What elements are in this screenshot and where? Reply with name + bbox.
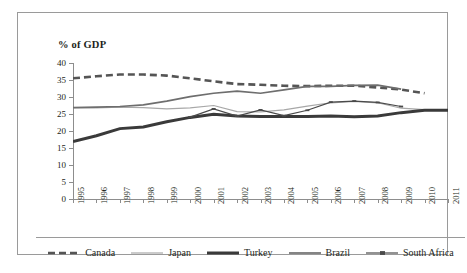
series-marker-south-africa xyxy=(376,102,380,104)
x-tick xyxy=(120,199,121,203)
series-line-brazil xyxy=(73,85,401,107)
x-tick xyxy=(73,199,74,203)
legend-swatch-japan xyxy=(130,248,164,258)
series-marker-south-africa xyxy=(329,101,333,103)
legend-swatch-canada xyxy=(47,248,81,258)
series-marker-south-africa xyxy=(352,100,356,102)
x-tick xyxy=(96,199,97,203)
series-marker-south-africa xyxy=(399,106,403,108)
series-marker-south-africa xyxy=(212,108,216,110)
y-tick-label: 30 xyxy=(26,93,66,102)
series-marker-south-africa xyxy=(188,116,192,118)
legend-label-japan: Japan xyxy=(168,247,191,258)
legend-swatch-brazil xyxy=(288,248,322,258)
series-marker-south-africa xyxy=(259,109,263,111)
legend-item-japan[interactable]: Japan xyxy=(130,247,191,258)
legend-label-brazil: Brazil xyxy=(326,247,350,258)
series-line-turkey xyxy=(73,110,448,141)
x-tick xyxy=(378,199,379,203)
series-marker-south-africa xyxy=(305,109,309,111)
x-tick xyxy=(237,199,238,203)
x-tick xyxy=(448,199,449,203)
chart-title: % of GDP xyxy=(58,39,106,50)
x-tick xyxy=(401,199,402,203)
legend-item-brazil[interactable]: Brazil xyxy=(288,247,350,258)
series-marker-south-africa xyxy=(282,115,286,117)
series-canvas xyxy=(73,63,448,199)
x-tick xyxy=(167,199,168,203)
y-tick-label: 20 xyxy=(26,127,66,136)
y-tick-label: 25 xyxy=(26,110,66,119)
y-tick-label: 5 xyxy=(26,178,66,187)
y-tick-label: 15 xyxy=(26,144,66,153)
x-tick xyxy=(261,199,262,203)
plot-area xyxy=(73,63,448,199)
y-tick-label: 10 xyxy=(26,161,66,170)
chart-legend: CanadaJapanTurkeyBrazilSouth Africa xyxy=(36,238,465,267)
x-tick xyxy=(354,199,355,203)
x-tick xyxy=(190,199,191,203)
legend-label-south-africa: South Africa xyxy=(403,247,454,258)
legend-item-canada[interactable]: Canada xyxy=(47,247,115,258)
y-tick-label: 0 xyxy=(26,195,66,204)
legend-item-turkey[interactable]: Turkey xyxy=(206,247,273,258)
legend-swatch-turkey xyxy=(206,248,240,258)
y-tick-label: 35 xyxy=(26,76,66,85)
x-tick-label: 2011 xyxy=(452,187,461,204)
x-tick xyxy=(214,199,215,203)
series-marker-south-africa xyxy=(235,115,239,117)
x-tick xyxy=(425,199,426,203)
legend-label-canada: Canada xyxy=(85,247,115,258)
x-tick xyxy=(143,199,144,203)
series-line-canada xyxy=(73,75,425,94)
x-tick xyxy=(307,199,308,203)
legend-swatch-south-africa xyxy=(365,248,399,258)
x-tick xyxy=(331,199,332,203)
legend-label-turkey: Turkey xyxy=(244,247,273,258)
y-tick-label: 40 xyxy=(26,59,66,68)
x-tick xyxy=(284,199,285,203)
chart-frame: % of GDP 0510152025303540 19951996199719… xyxy=(17,12,448,255)
legend-item-south-africa[interactable]: South Africa xyxy=(365,247,454,258)
